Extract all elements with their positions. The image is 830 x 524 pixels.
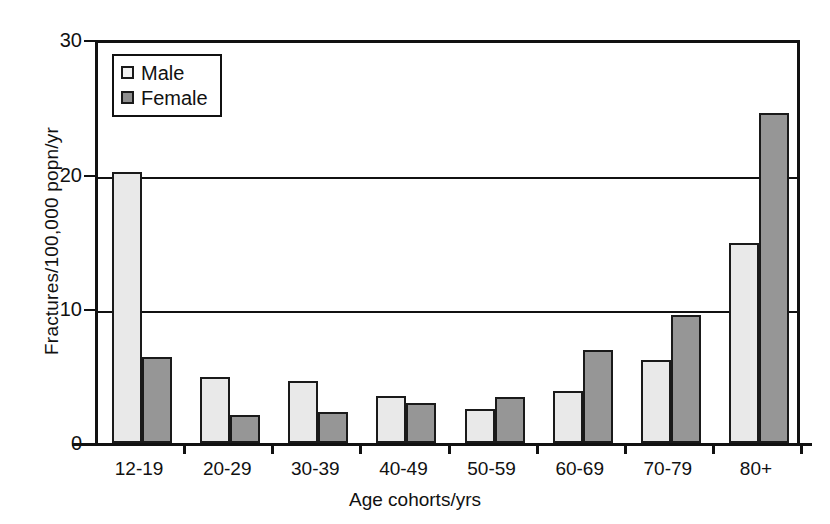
bar-female-40-49 <box>406 403 436 443</box>
y-tick-label-10: 10 <box>38 299 82 319</box>
bar-male-20-29 <box>200 377 230 443</box>
bar-female-50-59 <box>495 397 525 443</box>
gridline-20 <box>98 177 797 179</box>
x-tick-mark-12-19 <box>183 443 186 454</box>
legend-label-female: Female <box>141 88 208 108</box>
x-tick-label-40-49: 40-49 <box>359 458 447 480</box>
legend-label-male: Male <box>141 63 184 83</box>
x-tick-label-12-19: 12-19 <box>95 458 183 480</box>
y-tick-label-30: 30 <box>38 30 82 50</box>
x-tick-mark-40-49 <box>448 443 451 454</box>
x-tick-label-80+: 80+ <box>712 458 800 480</box>
x-tick-mark-80+ <box>800 443 803 454</box>
x-tick-mark-60-69 <box>624 443 627 454</box>
legend-swatch-male-icon <box>121 66 134 79</box>
gridline-10 <box>98 311 797 313</box>
bar-female-30-39 <box>318 412 348 443</box>
legend-item-female: Female <box>121 85 208 110</box>
bar-male-40-49 <box>376 396 406 443</box>
bar-female-12-19 <box>142 357 172 443</box>
x-tick-label-60-69: 60-69 <box>536 458 624 480</box>
bar-female-60-69 <box>583 350 613 443</box>
x-tick-mark-20-29 <box>271 443 274 454</box>
x-tick-mark-30-39 <box>359 443 362 454</box>
x-tick-label-20-29: 20-29 <box>183 458 271 480</box>
legend: Male Female <box>112 54 222 117</box>
bar-male-60-69 <box>553 391 583 443</box>
x-axis-title: Age cohorts/yrs <box>0 489 830 511</box>
bar-male-30-39 <box>288 381 318 443</box>
y-tick-mark-10 <box>84 309 95 311</box>
bar-male-80+ <box>729 243 759 443</box>
y-tick-mark-20 <box>84 175 95 177</box>
x-tick-mark-70-79 <box>712 443 715 454</box>
x-tick-mark-50-59 <box>536 443 539 454</box>
legend-item-male: Male <box>121 60 208 85</box>
x-tick-label-30-39: 30-39 <box>271 458 359 480</box>
bar-chart-figure: Fractures/100,000 popn/yr 30 20 10 0 12-… <box>0 0 830 524</box>
bar-male-12-19 <box>112 172 142 443</box>
y-tick-label-20: 20 <box>38 165 82 185</box>
bar-female-20-29 <box>230 415 260 443</box>
y-tick-mark-30 <box>84 40 95 42</box>
bar-female-70-79 <box>671 315 701 443</box>
legend-swatch-female-icon <box>121 91 134 104</box>
bar-male-70-79 <box>641 360 671 443</box>
x-tick-label-50-59: 50-59 <box>448 458 536 480</box>
bar-male-50-59 <box>465 409 495 443</box>
x-tick-label-70-79: 70-79 <box>624 458 712 480</box>
bar-female-80+ <box>759 113 789 444</box>
